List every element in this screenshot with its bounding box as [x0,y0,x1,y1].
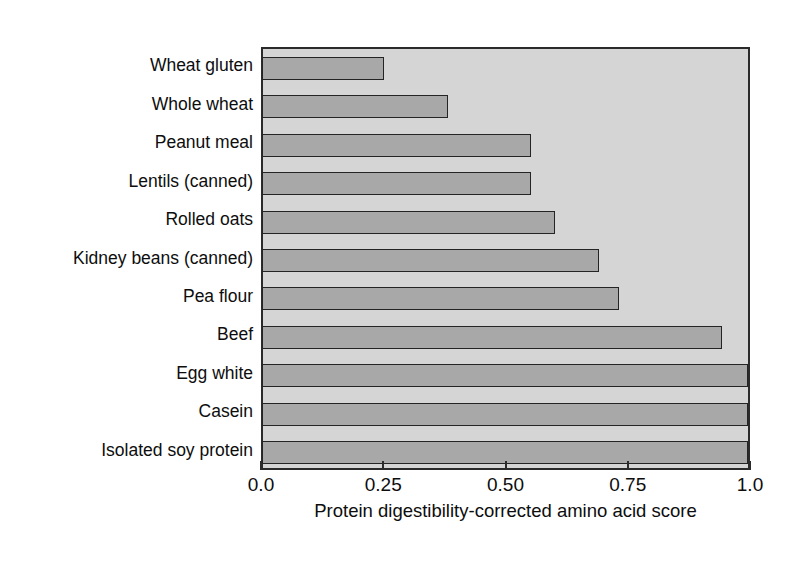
bar-row [263,241,748,279]
bar [262,403,748,426]
x-tick-label: 0.75 [609,474,646,496]
category-label: Egg white [3,365,261,383]
bar [262,249,599,272]
category-label: Pea flour [3,288,261,306]
y-axis-category-labels: Wheat glutenWhole wheatPeanut mealLentil… [0,47,261,470]
category-label: Rolled oats [3,211,261,229]
bar [262,287,619,310]
bar [262,211,555,234]
category-label: Wheat gluten [3,57,261,75]
bar [262,364,748,387]
x-tick-mark [260,461,262,470]
x-tick-mark [749,461,751,470]
bar [262,57,384,80]
plot-area [261,47,750,470]
bar [262,172,531,195]
category-label: Isolated soy protein [3,442,261,460]
bar [262,134,531,157]
x-tick-label: 0.25 [365,474,402,496]
x-tick-label: 0.0 [248,474,274,496]
x-tick-mark [627,461,629,470]
bar [262,326,722,349]
bar-row [263,280,748,318]
category-label: Peanut meal [3,134,261,152]
bar-row [263,49,748,87]
bar-row [263,203,748,241]
bar-row [263,357,748,395]
x-tick-label: 1.0 [737,474,763,496]
category-label: Casein [3,403,261,421]
x-tick-label: 0.50 [487,474,524,496]
bar-row [263,87,748,125]
bar-row [263,318,748,356]
x-tick-mark [382,461,384,470]
bar-row [263,126,748,164]
category-label: Whole wheat [3,96,261,114]
chart-figure: Wheat glutenWhole wheatPeanut mealLentil… [0,0,802,573]
x-tick-mark [505,461,507,470]
category-label: Kidney beans (canned) [3,250,261,268]
category-label: Beef [3,326,261,344]
bar-row [263,164,748,202]
x-axis-title: Protein digestibility-corrected amino ac… [261,500,750,522]
category-label: Lentils (canned) [3,173,261,191]
bar-row [263,395,748,433]
bar [262,95,448,118]
